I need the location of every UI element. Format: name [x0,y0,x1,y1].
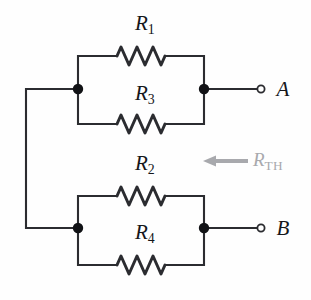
series-link-wire [26,89,78,228]
resistor-zigzag-r2 [117,187,165,205]
node-dot-bottom-left [73,223,83,233]
branch-wire-r3-right [165,89,204,124]
resistor-zigzag-r1 [117,47,165,65]
resistor-zigzag-r4 [117,256,165,274]
branch-wire-r4-right [165,228,204,265]
rth-annotation-label: RTH [253,150,283,172]
resistor-zigzag-r3 [117,115,165,133]
circuit-diagram: R1 R3 R2 R4 A B RTH [0,0,311,300]
branch-wire-r2 [78,196,117,228]
terminal-label-b: B [277,218,290,239]
branch-wire-r4 [78,228,117,265]
node-dot-top-left [73,84,83,94]
terminal-circle-a [257,85,264,92]
branch-wire-r3 [78,89,117,124]
resistor-label-r4: R4 [135,222,155,246]
resistor-label-r2: R2 [135,153,155,177]
branch-wire-r1-right [165,56,204,89]
resistor-label-r3: R3 [135,83,155,107]
terminal-label-a: A [277,79,290,100]
resistor-label-r1: R1 [135,13,155,37]
node-dot-bottom-right [199,223,209,233]
node-dot-top-right [199,84,209,94]
terminal-circle-b [257,224,264,231]
rth-arrow-icon [203,156,248,167]
branch-wire-r1 [78,56,117,89]
branch-wire-r2-right [165,196,204,228]
